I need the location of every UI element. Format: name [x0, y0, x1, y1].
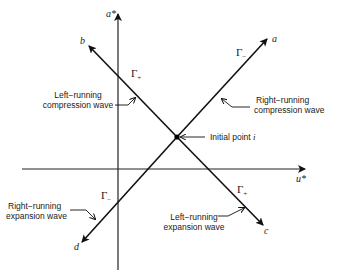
gamma-minus-lower-left: Γ−	[101, 190, 111, 205]
line-label-c: c	[264, 226, 268, 236]
annotation-line: Left−running	[154, 212, 234, 222]
annotation-line: expansion wave	[154, 222, 234, 232]
annotation-left-running-compression-wave: Left−running compression wave	[36, 90, 120, 110]
annotation-line: Right−running	[254, 95, 324, 105]
leader-right-expansion	[70, 210, 95, 219]
annotation-line: Left−running	[36, 90, 120, 100]
line-label-d: d	[74, 242, 79, 252]
characteristic-line-a	[177, 39, 267, 137]
gamma-subscript: −	[107, 196, 111, 204]
annotation-line: compression wave	[254, 105, 324, 115]
annotation-right-running-compression-wave: Right−running compression wave	[254, 95, 324, 115]
gamma-plus-upper-left: Γ+	[131, 68, 141, 83]
initial-point-symbol: i	[253, 132, 256, 142]
axis-label-u-star: u*	[296, 174, 306, 184]
gamma-subscript: +	[243, 190, 247, 198]
annotation-line: Right−running	[6, 201, 67, 211]
gamma-minus-upper-right: Γ−	[236, 47, 246, 62]
gamma-subscript: −	[242, 53, 246, 61]
annotation-left-running-expansion-wave: Left−running expansion wave	[154, 212, 234, 232]
annotation-right-running-expansion-wave: Right−running expansion wave	[6, 201, 67, 221]
leader-right-compression	[222, 99, 250, 107]
axis-label-a-star: a*	[106, 9, 116, 19]
annotation-line: expansion wave	[6, 211, 67, 221]
wave-diagram-canvas	[0, 0, 340, 275]
annotation-text: Initial point	[210, 132, 251, 142]
gamma-subscript: +	[137, 74, 141, 82]
line-label-b: b	[80, 36, 85, 46]
gamma-plus-lower-right: Γ+	[237, 184, 247, 199]
line-label-a: a	[272, 34, 277, 44]
annotation-initial-point: Initial point i	[210, 132, 256, 142]
annotation-line: compression wave	[36, 100, 120, 110]
initial-point-marker	[174, 134, 179, 139]
